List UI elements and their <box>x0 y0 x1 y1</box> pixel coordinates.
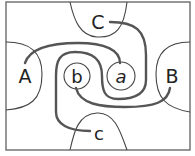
region-c-label: c <box>94 123 104 144</box>
region-C-label: C <box>91 11 104 33</box>
circle-a-label: a <box>115 66 126 87</box>
planar-diagram: A B C c b a <box>0 0 195 156</box>
region-A-label: A <box>19 65 32 87</box>
region-B-label: B <box>165 65 178 87</box>
circle-b-label: b <box>71 66 82 87</box>
